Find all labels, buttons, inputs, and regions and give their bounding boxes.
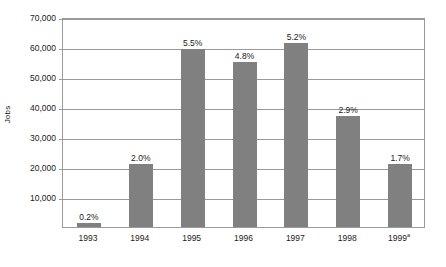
y-axis-tickmark bbox=[59, 49, 63, 50]
y-axis-tickmark bbox=[59, 79, 63, 80]
x-axis-tick-label: 1994 bbox=[130, 234, 149, 243]
x-axis-tick-label: 1993 bbox=[78, 234, 97, 243]
y-axis-tick-label: 20,000 bbox=[30, 164, 56, 173]
y-axis-tick-label: 10,000 bbox=[30, 194, 56, 203]
y-axis-tickmark bbox=[59, 169, 63, 170]
plot-area: 0.2%2.0%5.5%4.8%5.2%2.9%1.7% bbox=[62, 18, 425, 228]
y-axis-tickmark bbox=[59, 109, 63, 110]
bar-value-label: 2.9% bbox=[339, 106, 358, 115]
bar-value-label: 1.7% bbox=[390, 154, 409, 163]
y-axis-tickmark bbox=[59, 19, 63, 20]
y-axis-tickmark bbox=[59, 139, 63, 140]
x-axis-tick-label: 1999a bbox=[388, 234, 410, 243]
y-axis-tick-labels: 10,00020,00030,00040,00050,00060,00070,0… bbox=[14, 0, 60, 267]
bar-value-label: 4.8% bbox=[235, 52, 254, 61]
x-axis-tick-label: 1996 bbox=[234, 234, 253, 243]
gridline bbox=[63, 49, 424, 50]
y-axis-tick-label: 60,000 bbox=[30, 44, 56, 53]
bar bbox=[388, 164, 412, 227]
x-axis-tick-label: 1997 bbox=[286, 234, 305, 243]
gridline bbox=[63, 19, 424, 20]
bar-value-label: 0.2% bbox=[79, 213, 98, 222]
bar bbox=[336, 116, 360, 227]
bar bbox=[284, 43, 308, 228]
bar bbox=[233, 62, 257, 227]
bar-value-label: 5.2% bbox=[287, 33, 306, 42]
bar-chart: Jobs 10,00020,00030,00040,00050,00060,00… bbox=[0, 0, 446, 267]
bar bbox=[181, 49, 205, 228]
y-axis-title-text: Jobs bbox=[4, 105, 13, 123]
bar-value-label: 5.5% bbox=[183, 39, 202, 48]
y-axis-tick-label: 30,000 bbox=[30, 134, 56, 143]
x-axis-tick-footnote: a bbox=[407, 232, 410, 238]
bar bbox=[129, 164, 153, 227]
y-axis-tick-label: 40,000 bbox=[30, 104, 56, 113]
y-axis-tick-label: 50,000 bbox=[30, 74, 56, 83]
bar bbox=[77, 223, 101, 228]
y-axis-tickmark bbox=[59, 199, 63, 200]
y-axis-tick-label: 70,000 bbox=[30, 14, 56, 23]
x-axis-tick-label: 1995 bbox=[182, 234, 201, 243]
bar-value-label: 2.0% bbox=[131, 154, 150, 163]
x-axis-tick-label: 1998 bbox=[338, 234, 357, 243]
